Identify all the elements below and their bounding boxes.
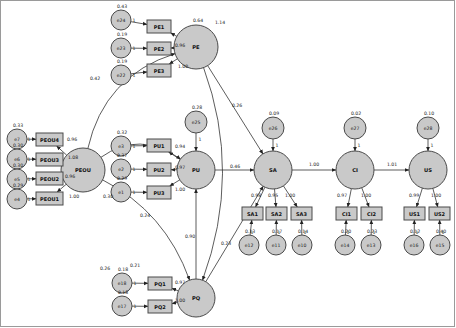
error-variance-e5: 0.30	[13, 163, 23, 168]
error-label-e13: e13	[367, 243, 376, 248]
unit-loading-12: 1	[199, 137, 202, 142]
error-variance-e4: 0.29	[13, 183, 23, 188]
loading-edge-US-US1	[417, 188, 423, 207]
error-variance-e17: 0.18	[118, 290, 128, 295]
unit-loading-2: 1	[133, 73, 136, 78]
sem-path-diagram: PE0.64PEOUPUPQSACIUSPE1PE2PE3PEOU4PEOU3P…	[0, 0, 456, 328]
indicator-label-PQ2: PQ2	[154, 304, 165, 310]
path-value-PE-SA: 0.26	[232, 103, 242, 108]
indicator-label-PEOU4: PEOU4	[40, 137, 59, 143]
error-variance-e27: 0.02	[351, 111, 361, 116]
path-value-SA-CI: 1.00	[309, 162, 319, 167]
error-label-e22: e22	[117, 73, 126, 78]
error-variance-e25: 0.28	[192, 105, 202, 110]
node-layer	[7, 10, 450, 317]
covariance-value-PE-PQ: 0.21	[130, 263, 140, 268]
loading-value-PEOU-PEOU4: 0.96	[67, 137, 77, 142]
indicator-label-PEOU1: PEOU1	[40, 196, 59, 202]
unit-loading-15: 1	[431, 143, 434, 148]
loading-value-PU-PU3: 1.00	[175, 187, 185, 192]
path-value-PQ-PU: 0.90	[185, 234, 195, 239]
error-variance-e1: 0.29	[117, 176, 127, 181]
path-PQ-SA	[206, 186, 263, 281]
unit-loading-13: 1	[276, 143, 279, 148]
error-variance-e2: 0.37	[117, 153, 127, 158]
loading-value-SA-SA1: 0.98	[251, 193, 261, 198]
latent-label-PQ: PQ	[192, 295, 200, 301]
indicator-label-PU3: PU3	[153, 190, 164, 196]
indicator-label-SA1: SA1	[247, 211, 258, 217]
latent-label-CI: CI	[352, 167, 358, 173]
indicator-label-CI2: CI2	[367, 211, 376, 217]
unit-loading-9: 1	[133, 190, 136, 195]
unit-loading-18: 1	[304, 230, 307, 235]
unit-loading-21: 1	[416, 230, 419, 235]
error-label-e16: e16	[410, 243, 419, 248]
error-variance-e23: 0.19	[117, 32, 127, 37]
error-label-e6: e6	[14, 157, 20, 162]
variance-PE: 0.64	[193, 18, 203, 23]
error-variance-e28: 0.10	[424, 111, 434, 116]
unit-loading-4: 1	[28, 157, 31, 162]
covariance-value-PEOU-PE: 0.42	[90, 76, 100, 81]
loading-edge-PE-PE1	[171, 33, 177, 36]
error-label-e24: e24	[117, 18, 126, 23]
error-label-e26: e26	[269, 126, 278, 131]
covariance-value-PEOU-PU: 0.30	[103, 194, 113, 199]
indicator-label-PU2: PU2	[153, 167, 164, 173]
loading-edge-PQ-PQ2	[172, 302, 178, 303]
loading-value-PQ-PQ2: 1.00	[175, 298, 185, 303]
error-label-e7: e7	[14, 137, 20, 142]
loading-value-SA-SA3: 1.00	[285, 193, 295, 198]
indicator-label-PE3: PE3	[154, 68, 165, 74]
error-variance-e7: 0.33	[13, 123, 23, 128]
path-value-PU-SA: 0.46	[230, 164, 240, 169]
loading-value-PU-PU2: 0.97	[175, 165, 185, 170]
unit-loading-7: 1	[133, 144, 136, 149]
indicator-label-US2: US2	[434, 211, 445, 217]
covariance-value-PE-PU: 0.24	[140, 213, 150, 218]
loading-value-SA-SA2: 0.95	[268, 193, 278, 198]
error-label-e12: e12	[245, 243, 254, 248]
indicator-label-PE2: PE2	[154, 46, 165, 52]
latent-label-PU: PU	[192, 167, 200, 173]
loading-value-PQ-PQ1: 0.97	[175, 280, 185, 285]
unit-loading-16: 1	[251, 230, 254, 235]
loading-value-PE-PE1: 1.14	[215, 20, 225, 25]
loading-value-CI-CI2: 1.00	[361, 193, 371, 198]
unit-loading-6: 1	[28, 197, 31, 202]
unit-loading-0: 1	[133, 18, 136, 23]
loading-value-PE-PE3: 1.00	[178, 64, 188, 69]
loading-value-PE-PE2: 0.96	[175, 43, 185, 48]
error-label-e15: e15	[436, 243, 445, 248]
covariance-value-PEOU-PQ: 0.26	[100, 266, 110, 271]
loading-value-US-US2: 1.00	[431, 193, 441, 198]
error-label-e1: e1	[118, 190, 124, 195]
unit-loading-3: 1	[28, 137, 31, 142]
loading-value-US-US1: 0.99	[409, 193, 419, 198]
latent-label-PE: PE	[192, 44, 199, 50]
indicator-label-US1: US1	[409, 211, 420, 217]
indicator-label-PEOU2: PEOU2	[40, 176, 59, 182]
error-label-e25: e25	[192, 120, 201, 125]
unit-loading-20: 1	[373, 230, 376, 235]
indicator-label-CI1: CI1	[342, 211, 351, 217]
latent-label-US: US	[424, 167, 432, 173]
loading-edge-PQ-PQ1	[172, 288, 178, 291]
path-value-PQ-SA: 0.23	[221, 241, 231, 246]
error-label-e4: e4	[14, 197, 20, 202]
unit-loading-1: 1	[133, 46, 136, 51]
unit-loading-11: 1	[134, 304, 137, 309]
error-variance-e24: 0.43	[117, 4, 127, 9]
error-label-e23: e23	[117, 46, 126, 51]
unit-loading-10: 1	[134, 281, 137, 286]
loading-value-PEOU-PEOU1: 1.00	[69, 194, 79, 199]
unit-loading-14: 1	[358, 143, 361, 148]
error-label-e5: e5	[14, 177, 20, 182]
error-variance-e3: 0.32	[117, 130, 127, 135]
indicator-label-PEOU3: PEOU3	[40, 157, 59, 163]
latent-label-SA: SA	[269, 167, 277, 173]
loading-value-PEOU-PEOU3: 1.08	[68, 155, 78, 160]
loading-edge-US-US2	[433, 188, 438, 207]
unit-loading-19: 1	[347, 230, 350, 235]
